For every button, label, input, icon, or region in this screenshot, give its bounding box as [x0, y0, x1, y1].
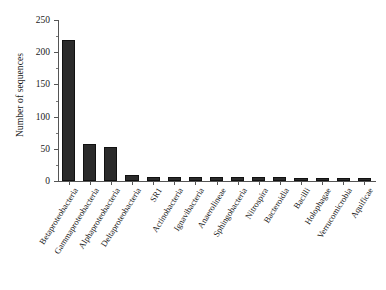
x-tick-label-text: Anaerolineae: [195, 185, 228, 230]
x-tick-mark: [174, 181, 175, 185]
x-tick-mark: [195, 181, 196, 185]
x-tick-mark: [90, 181, 91, 185]
x-tick-mark: [132, 181, 133, 185]
y-axis-title: Number of sequences: [15, 53, 25, 137]
y-axis-title-container: Number of sequences: [10, 0, 30, 190]
bar: [104, 147, 117, 181]
bar: [83, 144, 96, 181]
bar-chart-figure: Number of sequences 050100150200250 Beta…: [0, 0, 386, 290]
x-tick-mark: [217, 181, 218, 185]
x-tick-label-text: Actinobacteria: [150, 185, 186, 234]
y-tick-mark: [54, 181, 58, 182]
x-tick-mark: [69, 181, 70, 185]
x-tick-mark: [364, 181, 365, 185]
y-tick-label: 50: [0, 144, 50, 154]
x-tick-label-text: Bacilli: [291, 185, 312, 211]
y-tick-label: 150: [0, 79, 50, 89]
x-tick-mark: [343, 181, 344, 185]
x-tick-mark: [322, 181, 323, 185]
x-tick-label-text: SR1: [148, 185, 165, 204]
x-tick-label-text: Verrucomicrobia: [315, 185, 355, 240]
x-tick-label-text: Gammaproteobacteria: [52, 185, 101, 256]
y-tick-label: 100: [0, 112, 50, 122]
plot-area: [58, 20, 375, 181]
bar: [62, 40, 75, 181]
x-tick-mark: [238, 181, 239, 185]
x-tick-label-text: Deltaproteobacteria: [99, 185, 144, 249]
x-tick-label-text: Holophagae: [303, 185, 334, 226]
y-tick-label: 250: [0, 15, 50, 25]
x-tick-label-text: Bacteroidia: [261, 185, 291, 225]
x-tick-label-text: Aquificae: [349, 185, 376, 220]
x-tick-mark: [280, 181, 281, 185]
x-tick-mark: [301, 181, 302, 185]
y-tick-label: 200: [0, 47, 50, 57]
x-tick-label-text: Nitrospira: [243, 185, 270, 221]
y-tick-label: 0: [0, 176, 50, 186]
x-tick-label-text: Sphingobacteria: [211, 185, 250, 239]
x-tick-label-text: Betaproteobacteria: [37, 185, 80, 246]
x-tick-mark: [153, 181, 154, 185]
x-tick-mark: [259, 181, 260, 185]
x-tick-label-text: Alphaproteobacteria: [76, 185, 122, 251]
x-tick-label-text: Ignavibacteria: [172, 185, 207, 233]
x-tick-mark: [111, 181, 112, 185]
